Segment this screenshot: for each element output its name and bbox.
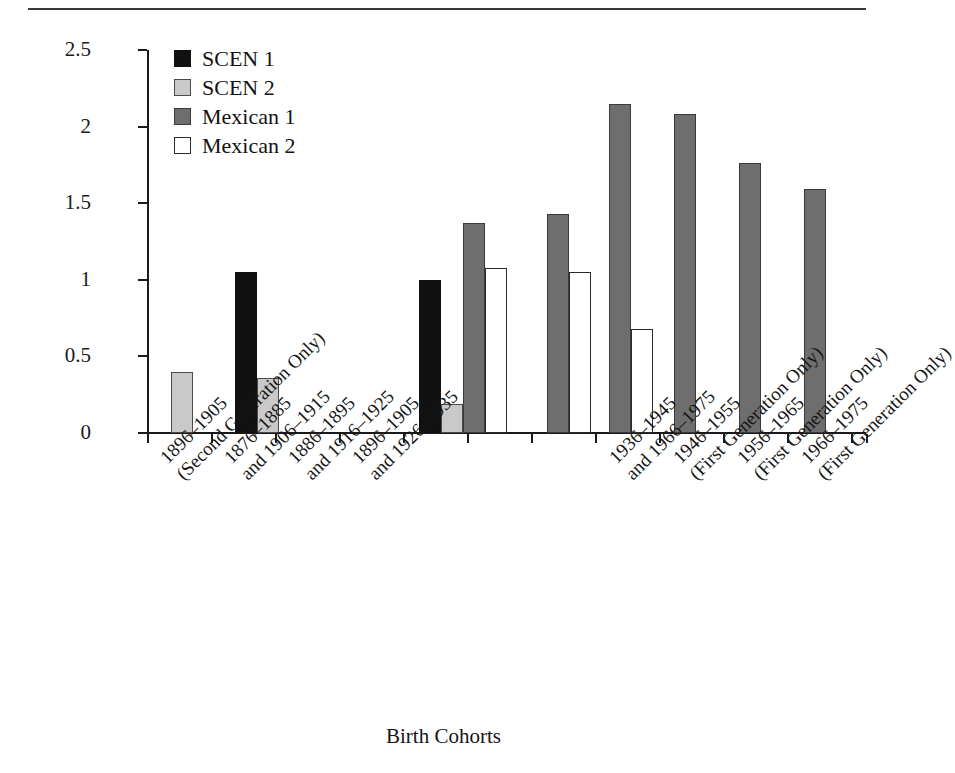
x-axis-title: Birth Cohorts (0, 724, 887, 749)
